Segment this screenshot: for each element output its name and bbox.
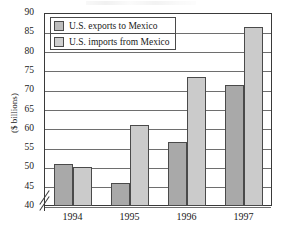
bar-imports-1996: [187, 77, 206, 206]
y-tick-label: 55: [8, 143, 34, 153]
y-tick-label: 90: [8, 8, 34, 18]
legend-swatch-imports: [54, 37, 64, 47]
bar-exports-1995: [111, 183, 130, 206]
legend-item: U.S. imports from Mexico: [51, 33, 175, 49]
scan-artifact: [86, 1, 196, 5]
y-tick-label: 80: [8, 47, 34, 57]
gridline: [45, 207, 271, 208]
y-tick-label: 40: [8, 201, 34, 211]
y-tick-label: 70: [8, 85, 34, 95]
bar-exports-1997: [225, 85, 244, 206]
y-tick-label: 60: [8, 124, 34, 134]
gridline: [45, 52, 271, 53]
bar-exports-1996: [168, 142, 187, 206]
legend-swatch-exports: [54, 21, 64, 31]
x-tick-label: 1996: [157, 211, 217, 222]
x-tick-label: 1994: [43, 211, 103, 222]
x-tick-label: 1997: [214, 211, 274, 222]
chart-legend: U.S. exports to MexicoU.S. imports from …: [50, 17, 176, 50]
y-tick-label: 75: [8, 66, 34, 76]
bar-imports-1994: [73, 167, 92, 206]
legend-label: U.S. exports to Mexico: [69, 21, 157, 31]
y-tick-label: 50: [8, 162, 34, 172]
y-tick-label: 45: [8, 182, 34, 192]
bar-chart-figure: ($ billions) 4045505560657075808590 1994…: [0, 0, 282, 239]
bar-imports-1997: [244, 27, 263, 206]
legend-label: U.S. imports from Mexico: [69, 37, 170, 47]
bar-exports-1994: [54, 164, 73, 206]
y-tick-label: 85: [8, 27, 34, 37]
bar-imports-1995: [130, 125, 149, 206]
x-tick-label: 1995: [100, 211, 160, 222]
legend-item: U.S. exports to Mexico: [51, 18, 175, 33]
gridline: [45, 71, 271, 72]
y-tick-label: 65: [8, 105, 34, 115]
